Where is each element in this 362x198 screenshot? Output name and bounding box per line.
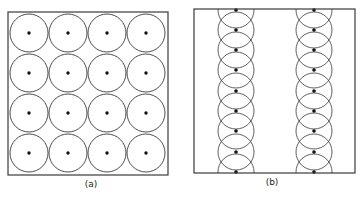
- chain-center-dot: [312, 150, 316, 154]
- chain-circle: [218, 0, 254, 28]
- chain-center-dot: [234, 68, 238, 72]
- chain-center-dot: [234, 48, 238, 52]
- chain-center-dot: [312, 109, 316, 113]
- chain-center-dot: [234, 150, 238, 154]
- center-dot: [66, 31, 69, 34]
- center-dot: [144, 31, 147, 34]
- center-dot: [27, 111, 30, 114]
- center-dot: [66, 111, 69, 114]
- center-dot: [27, 151, 30, 154]
- chain-circle: [296, 0, 332, 28]
- chain-center-dot: [312, 89, 316, 93]
- center-dot: [144, 111, 147, 114]
- center-dot: [105, 111, 108, 114]
- center-dot: [105, 151, 108, 154]
- center-dot: [144, 151, 147, 154]
- diagram-canvas: [0, 0, 362, 198]
- chain-center-dot: [234, 28, 238, 32]
- panel-b-caption: (b): [266, 177, 279, 187]
- center-dot: [27, 71, 30, 74]
- chain-center-dot: [234, 129, 238, 133]
- chain-center-dot: [312, 68, 316, 72]
- panel-a-caption: (a): [85, 179, 98, 189]
- center-dot: [66, 151, 69, 154]
- chain-center-dot: [234, 109, 238, 113]
- center-dot: [105, 71, 108, 74]
- panel-b-chain-packing: [194, 0, 355, 190]
- chain-center-dot: [312, 129, 316, 133]
- chain-center-dot: [312, 28, 316, 32]
- chain-center-dot: [312, 48, 316, 52]
- center-dot: [27, 31, 30, 34]
- center-dot: [66, 71, 69, 74]
- center-dot: [105, 31, 108, 34]
- center-dot: [144, 71, 147, 74]
- chain-center-dot: [234, 89, 238, 93]
- panel-a-square-packing: [8, 12, 168, 175]
